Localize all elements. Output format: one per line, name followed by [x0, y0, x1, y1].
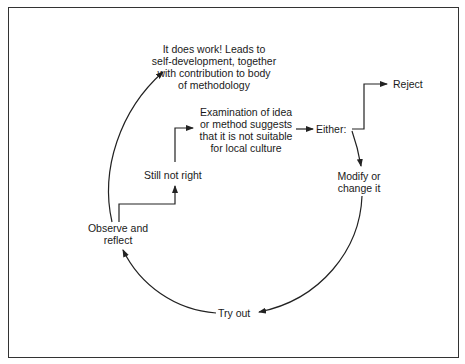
node-either: Either:: [316, 123, 346, 135]
node-it-works-line: of methodology: [152, 79, 276, 91]
node-observe-line: reflect: [88, 234, 148, 246]
node-it-works-line: with contribution to body: [152, 67, 276, 79]
node-it-works-line: self-development, together: [152, 55, 276, 67]
node-observe: Observe and reflect: [88, 222, 148, 246]
node-reject: Reject: [393, 78, 423, 90]
arrow-still-not-right-to-examination: [175, 128, 193, 162]
node-examination-line: for local culture: [200, 142, 293, 154]
node-it-works-line: It does work! Leads to: [152, 43, 276, 55]
node-it-works: It does work! Leads to self-development,…: [152, 43, 276, 91]
node-examination-line: or method suggests: [200, 118, 293, 130]
node-still-not-right: Still not right: [144, 169, 202, 181]
node-modify: Modify or change it: [337, 170, 380, 194]
node-observe-line: Observe and: [88, 222, 148, 234]
arrow-either-to-modify: [352, 131, 361, 166]
arrow-observe-to-it-works: [109, 72, 163, 222]
arrow-try-out-to-observe: [123, 250, 216, 313]
arrow-either-to-reject: [352, 84, 387, 129]
node-examination-line: Examination of idea: [200, 106, 293, 118]
node-modify-line: change it: [337, 182, 380, 194]
node-modify-line: Modify or: [337, 170, 380, 182]
arrow-observe-to-still-not-right: [119, 186, 175, 222]
arrow-modify-to-try-out: [259, 196, 362, 312]
node-examination-line: that it is not suitable: [200, 130, 293, 142]
node-try-out: Try out: [218, 307, 250, 319]
node-examination: Examination of idea or method suggests t…: [200, 106, 293, 154]
